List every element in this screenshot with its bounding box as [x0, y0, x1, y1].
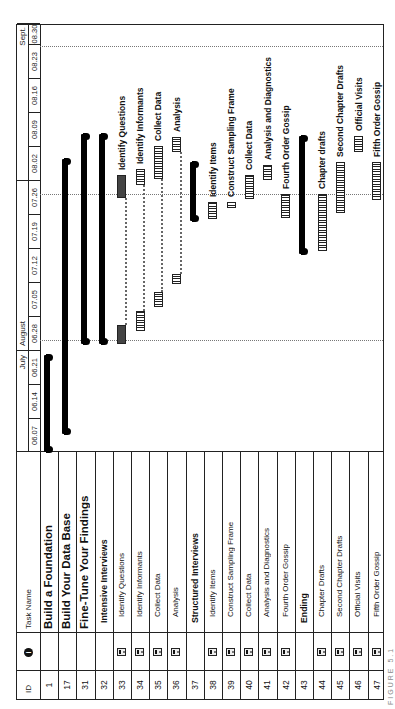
task-name: Official Visits — [353, 436, 362, 633]
task-bar[interactable] — [208, 202, 217, 219]
bar-label: Chapter drafts — [317, 131, 327, 189]
table-row[interactable]: 47Fifth Order Gossip — [368, 452, 386, 699]
task-bar[interactable] — [318, 194, 327, 251]
task-bar[interactable] — [117, 175, 126, 198]
summary-bar[interactable] — [44, 355, 50, 452]
table-row[interactable]: 1Build a Foundation — [40, 452, 58, 699]
note-icon[interactable] — [226, 648, 235, 656]
table-row[interactable]: 36Analysis — [167, 452, 185, 699]
note-icon[interactable] — [135, 648, 144, 656]
week-label: 07.19 — [28, 214, 40, 248]
task-name: Second Chapter Drafts — [335, 436, 344, 633]
table-row[interactable]: 40Collect Data — [240, 452, 258, 699]
week-label: 08.23 — [28, 44, 40, 78]
bar-label: Identify Items — [208, 142, 218, 197]
bar-label: Identify Informants — [135, 87, 145, 164]
task-bar[interactable] — [136, 169, 145, 185]
bar-label: Construct Sampling Frame — [226, 88, 236, 197]
table-row[interactable]: 37Structured Interviews — [186, 452, 204, 699]
task-name: Construct Sampling Frame — [226, 436, 235, 633]
task-bar[interactable] — [154, 292, 163, 307]
task-bar[interactable] — [336, 162, 345, 213]
task-bar[interactable] — [136, 311, 145, 331]
task-bar[interactable] — [172, 137, 181, 152]
task-id: 17 — [62, 671, 72, 699]
header-task-name: Task Name — [24, 589, 33, 629]
bar-label: Analysis and Diagnostics — [263, 57, 273, 160]
split-connector — [125, 198, 127, 325]
note-icon[interactable] — [317, 648, 326, 656]
table-row[interactable]: 45Second Chapter Drafts — [331, 452, 349, 699]
task-name: Fourth Order Gossip — [281, 436, 290, 633]
task-bar[interactable] — [172, 274, 181, 284]
task-id: 35 — [153, 671, 163, 699]
week-label: 07.12 — [28, 248, 40, 282]
bar-label: Collect Data — [153, 92, 163, 141]
task-name: Analysis — [171, 436, 180, 633]
note-icon[interactable] — [281, 648, 290, 656]
table-row[interactable]: 46Official Visits — [349, 452, 367, 699]
task-name: Intensive Interviews — [99, 442, 109, 633]
note-icon[interactable] — [262, 648, 271, 656]
split-connector — [143, 185, 145, 311]
info-icon: i — [24, 648, 33, 657]
summary-bar[interactable] — [62, 159, 68, 434]
note-icon[interactable] — [372, 648, 381, 656]
note-icon[interactable] — [153, 648, 162, 656]
note-icon[interactable] — [208, 648, 217, 656]
table-row[interactable]: 38Identify Items — [204, 452, 222, 699]
table-row[interactable]: 34Identify Informants — [131, 452, 149, 699]
task-bar[interactable] — [154, 146, 163, 179]
task-id: 44 — [317, 671, 327, 699]
task-id: 47 — [372, 671, 382, 699]
table-row[interactable]: 44Chapter Drafts — [313, 452, 331, 699]
note-icon[interactable] — [117, 648, 126, 656]
task-bar[interactable] — [227, 202, 236, 208]
task-bar[interactable] — [117, 325, 126, 344]
table-row[interactable]: 35Collect Data — [149, 452, 167, 699]
month-cell: Sept. — [17, 23, 28, 44]
task-bar[interactable] — [245, 175, 254, 199]
task-bar[interactable] — [372, 162, 381, 200]
note-icon[interactable] — [335, 648, 344, 656]
task-name: Identify Questions — [117, 436, 126, 633]
table-row[interactable]: 42Fourth Order Gossip — [277, 452, 295, 699]
task-id: 32 — [99, 671, 109, 699]
bar-label: Official Visits — [354, 77, 364, 131]
task-id: 46 — [353, 671, 363, 699]
table-row[interactable]: 17Build Your Data Base — [58, 452, 76, 699]
note-icon[interactable] — [244, 648, 253, 656]
week-label: 06.07 — [28, 418, 40, 452]
task-id: 45 — [335, 671, 345, 699]
note-icon[interactable] — [353, 648, 362, 656]
task-id: 34 — [135, 671, 145, 699]
summary-bar[interactable] — [299, 136, 305, 254]
task-bar[interactable] — [263, 165, 272, 180]
month-cell: July — [17, 350, 28, 452]
table-row[interactable]: 39Construct Sampling Frame — [222, 452, 240, 699]
bar-label: Fourth Order Gossip — [281, 105, 291, 189]
month-label: August — [18, 321, 27, 346]
table-row[interactable]: 33Identify Questions — [113, 452, 131, 699]
task-name: Collect Data — [153, 436, 162, 633]
task-bar[interactable] — [354, 136, 363, 152]
bar-label: Second Chapter Drafts — [335, 65, 345, 157]
table-row[interactable]: 31Fine-Tune Your Findings — [76, 452, 94, 699]
split-connector — [161, 179, 163, 292]
summary-bar[interactable] — [99, 134, 105, 344]
table-row[interactable]: 43Ending — [295, 452, 313, 699]
table-row[interactable]: 41Analysis and Diagnostics — [258, 452, 276, 699]
table-row[interactable]: 32Intensive Interviews — [95, 452, 113, 699]
note-icon[interactable] — [171, 648, 180, 656]
week-label: 06.21 — [28, 350, 40, 384]
summary-bar[interactable] — [81, 134, 87, 344]
week-gridline — [40, 46, 383, 47]
task-name: Ending — [299, 442, 309, 633]
task-id: 42 — [281, 671, 291, 699]
task-bar[interactable] — [281, 194, 290, 218]
task-name: Identify Items — [208, 436, 217, 633]
task-id: 37 — [190, 671, 200, 699]
month-cell: August — [17, 180, 28, 350]
week-gridline — [40, 340, 383, 341]
summary-bar[interactable] — [190, 162, 196, 221]
